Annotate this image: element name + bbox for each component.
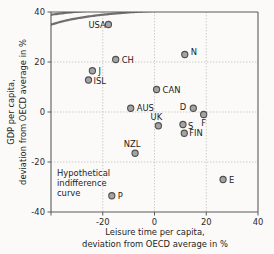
x-axis-title-line-2: deviation from OECD average in % (82, 239, 228, 249)
point-marker-aus (128, 105, 134, 111)
data-point-fin: FIN (181, 128, 203, 138)
point-label-can: CAN (163, 85, 181, 95)
point-label-p: P (118, 191, 123, 201)
x-axis-title: Leisure time per capita, deviation from … (82, 227, 228, 249)
point-label-usa: USA (88, 20, 106, 30)
point-label-isl: ISL (94, 76, 107, 86)
data-point-j: J (89, 66, 101, 76)
point-marker-n (182, 51, 188, 57)
indifference-curve-2 (11, 4, 274, 13)
point-marker-uk (155, 123, 161, 129)
annotation-line-1: Hypothetical (57, 168, 110, 178)
point-marker-j (89, 68, 95, 74)
y-tick-label: 40 (34, 7, 45, 17)
point-label-fin: FIN (189, 128, 203, 138)
x-axis-title-line-1: Leisure time per capita, (105, 227, 204, 237)
y-tick-label: -40 (31, 207, 45, 217)
point-marker-can (153, 86, 159, 92)
data-point-n: N (182, 47, 197, 58)
point-marker-fin (181, 130, 187, 136)
point-marker-d (190, 105, 196, 111)
point-marker-isl (85, 77, 91, 83)
data-point-f: F (201, 111, 207, 127)
data-point-e: E (220, 175, 234, 185)
annotation-line-2: indifference (57, 178, 107, 188)
point-marker-s (180, 121, 186, 127)
annotation-line-3: curve (57, 188, 80, 198)
point-marker-ch (113, 56, 119, 62)
annotation-hypothetical-indifference-curve: Hypothetical indifference curve (57, 168, 110, 198)
indifference-curve-1 (11, 3, 274, 6)
x-tick-label: -20 (96, 217, 110, 227)
y-axis-title-line-2: deviation from OECD average in % (18, 39, 28, 185)
point-marker-p (109, 193, 115, 199)
y-tick-label: -20 (31, 157, 45, 167)
point-label-d: D (180, 102, 186, 112)
point-marker-usa (105, 21, 111, 27)
point-label-e: E (229, 175, 234, 185)
point-label-nzl: NZL (124, 139, 141, 149)
point-marker-e (220, 176, 226, 182)
data-point-isl: ISL (85, 76, 106, 86)
point-marker-nzl (132, 150, 138, 156)
data-point-d: D (180, 102, 197, 112)
scatter-chart-svg: -2002040-40-2002040 USACHJISLNCANAUSDFUK… (0, 0, 274, 254)
point-label-j: J (97, 66, 100, 76)
data-point-can: CAN (153, 85, 180, 95)
data-point-nzl: NZL (124, 139, 141, 156)
data-point-p: P (109, 191, 123, 201)
point-label-f: F (201, 118, 206, 128)
y-axis-title-line-1: GDP per capita, (6, 79, 16, 145)
data-point-ch: CH (113, 55, 134, 65)
y-tick-label: 20 (34, 57, 45, 67)
point-label-ch: CH (122, 55, 134, 65)
y-tick-label: 0 (40, 107, 45, 117)
x-tick-label: 20 (201, 217, 212, 227)
x-tick-label: 0 (152, 217, 157, 227)
data-point-usa: USA (88, 20, 111, 30)
point-label-uk: UK (151, 112, 163, 122)
y-axis-title: GDP per capita, deviation from OECD aver… (6, 39, 28, 185)
data-point-uk: UK (151, 112, 163, 129)
x-tick-label: 40 (253, 217, 264, 227)
chart-figure: -2002040-40-2002040 USACHJISLNCANAUSDFUK… (0, 0, 274, 254)
point-label-n: N (191, 47, 197, 57)
